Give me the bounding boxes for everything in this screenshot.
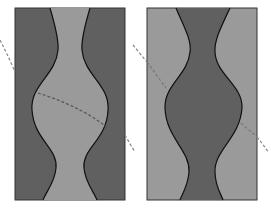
left-dashed-line-outer-bottom <box>125 135 135 152</box>
left-dashed-line-outer-top <box>0 40 15 72</box>
diagram-canvas <box>0 0 271 219</box>
right-dashed-line-outer-top <box>133 45 147 62</box>
right-dashed-line-outer-bottom <box>257 137 269 153</box>
left-panel <box>15 8 125 200</box>
right-panel <box>147 8 257 200</box>
